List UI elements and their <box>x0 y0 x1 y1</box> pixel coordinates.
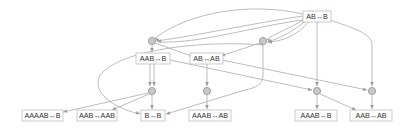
event-node[interactable] <box>203 87 210 94</box>
arrowhead-layer <box>63 37 374 116</box>
arrowhead-icon <box>205 82 209 86</box>
arrowhead-icon <box>152 82 156 86</box>
arrowhead-icon <box>150 105 154 109</box>
event-node[interactable] <box>259 37 266 44</box>
edge <box>320 94 356 110</box>
event-node[interactable] <box>148 87 155 94</box>
edge <box>221 43 260 56</box>
event-node[interactable] <box>368 87 375 94</box>
state-node-s-ab-b[interactable]: AB↔B <box>303 11 331 22</box>
state-label: AAAB↔B <box>300 111 331 120</box>
state-label: AB↔AB <box>193 54 220 63</box>
state-label: AAB↔AAB <box>79 111 115 120</box>
edge <box>267 19 305 39</box>
state-node-s-b-b[interactable]: B↔B <box>141 110 165 121</box>
edge <box>112 94 149 110</box>
multiway-graph: AB↔BAAB↔BAB↔ABAAAAB↔BAAB↔AABB↔BAAAB↔ABAA… <box>0 0 411 130</box>
state-label: AAAB↔AB <box>192 111 228 120</box>
edge <box>267 21 309 42</box>
state-label: B↔B <box>145 111 162 120</box>
arrowhead-icon <box>148 82 152 86</box>
arrowhead-icon <box>370 105 374 109</box>
state-label: AAB↔B <box>140 54 167 63</box>
event-node[interactable] <box>313 87 320 94</box>
state-node-s-aab-ab[interactable]: AAB↔AB <box>350 110 392 121</box>
arrowhead-icon <box>136 111 141 116</box>
arrowhead-icon <box>205 105 209 109</box>
arrowhead-icon <box>370 82 374 86</box>
event-node[interactable] <box>148 37 155 44</box>
edge <box>157 16 303 41</box>
state-node-s-aaab-b[interactable]: AAAB↔B <box>295 110 337 121</box>
arrowhead-icon <box>315 105 319 109</box>
arrowhead-icon <box>315 82 319 86</box>
state-label: AAAAB↔B <box>25 111 61 120</box>
state-label: AB↔B <box>306 12 328 21</box>
edge <box>170 60 312 90</box>
edge <box>330 20 372 86</box>
state-node-s-aab-aab[interactable]: AAB↔AAB <box>77 110 117 121</box>
edge <box>222 60 367 90</box>
state-node-s-aaaab-b[interactable]: AAAAB↔B <box>22 110 63 121</box>
edge <box>63 93 148 112</box>
state-node-s-aaab-ab[interactable]: AAAB↔AB <box>189 110 231 121</box>
state-node-s-aab-b[interactable]: AAB↔B <box>136 53 170 64</box>
edge <box>268 20 307 42</box>
state-label: AAB↔AB <box>355 111 386 120</box>
edge <box>98 44 263 114</box>
state-node-s-ab-ab[interactable]: AB↔AB <box>190 53 223 64</box>
